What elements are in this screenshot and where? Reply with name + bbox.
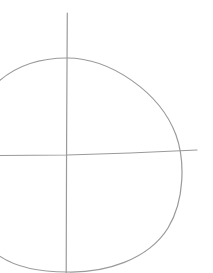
sketch-canvas — [0, 0, 213, 273]
sketch-drawing — [0, 0, 213, 273]
horizontal-axis-line — [0, 150, 197, 156]
vertical-axis-line — [66, 13, 67, 273]
rounded-shape-outline — [0, 58, 182, 272]
